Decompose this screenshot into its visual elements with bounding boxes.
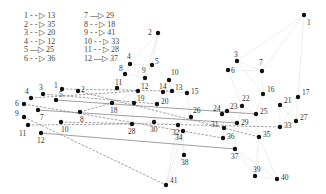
source-node [22,115,26,119]
target-node [257,135,261,139]
mesh-edge [152,65,169,80]
mesh-edge [235,123,237,149]
target-node [221,136,225,140]
node-label: 30 [150,125,158,134]
target-node [235,121,239,125]
node-label: 28 [128,127,136,136]
node-label: 41 [170,176,178,185]
node-label: 27 [300,113,308,122]
node-label: 36 [227,132,235,141]
node-label: 40 [281,173,289,182]
node-label: 13 [175,83,183,92]
mesh-edge [296,97,298,121]
node-label: 11 [19,129,26,138]
mesh-edge [183,117,191,131]
target-node [152,120,156,124]
target-node [260,69,264,73]
node-label: 18 [110,106,118,115]
source-node [29,96,33,100]
target-node [233,147,237,151]
target-node [164,183,168,187]
node-label: 29 [241,118,249,127]
node-label: 20 [161,97,169,106]
source-node [78,110,82,114]
source-node [76,89,80,93]
mesh-edge [187,93,191,117]
node-label: 21 [284,96,292,105]
target-node [156,31,160,35]
node-label: 4 [25,87,29,96]
node-label: 12 [37,136,45,145]
target-node [130,122,134,126]
node-label: 10 [171,68,179,77]
target-node [182,153,186,157]
target-node [132,101,136,105]
node-label: 17 [302,88,310,97]
legend-entry: 12 —▷ 37 [84,55,144,64]
node-label: 8 [80,115,84,124]
node-label: 11 [115,78,122,87]
node-label: 9 [15,109,19,118]
node-label: 3 [39,83,43,92]
node-label: 1 [54,81,58,90]
mesh-edge [228,70,242,106]
target-node [261,92,265,96]
node-label: 39 [253,165,261,174]
node-label: 33 [284,121,292,130]
node-label: 35 [263,130,271,139]
mesh-edge [263,94,280,105]
node-label: 10 [61,125,69,134]
mapping-edge [28,124,132,125]
target-node [294,119,298,123]
node-label: 26 [193,106,201,115]
node-label: 9 [142,66,146,75]
mapping-edge [80,103,112,112]
source-node [22,102,26,106]
node-label: 5 [59,90,63,99]
target-node [235,59,239,63]
node-label: 1 [307,18,311,27]
source-node [41,92,45,96]
target-node [185,91,189,95]
target-node [143,76,147,80]
mapping-edge [38,110,237,123]
target-node [278,103,282,107]
node-label: 37 [231,152,239,161]
mesh-edge [298,15,304,97]
source-node [59,120,63,124]
mesh-edge [242,106,256,114]
node-label: 34 [175,133,183,142]
target-node [254,112,258,116]
graph-mapping-diagram: 1234567891011121234567891011121314151617… [0,0,326,194]
mesh-edge [262,15,304,71]
target-node [189,115,193,119]
target-node [110,101,114,105]
node-label: 16 [267,85,275,94]
node-label: 24 [213,104,221,113]
target-node [225,109,229,113]
mesh-edge [256,114,259,137]
node-label: 12 [141,82,149,91]
target-node [278,125,282,129]
node-label: 14 [159,82,167,91]
target-node [302,13,306,17]
node-label: 3 [234,50,238,59]
target-node [123,72,127,76]
node-label: 2 [81,85,85,94]
target-node [136,89,140,93]
source-node [54,98,58,102]
mesh-edge [132,103,134,124]
mapping-edge [78,91,259,137]
node-label: 31 [211,120,219,129]
source-node [39,131,43,135]
target-node [170,89,174,93]
mesh-edge [222,114,237,123]
mapping-edge [24,117,166,185]
target-node [176,123,180,127]
target-node [155,102,159,106]
mesh-edge [237,15,304,61]
target-node [240,104,244,108]
target-node [222,126,226,130]
node-label: 38 [181,158,189,167]
node-label: 6 [15,99,19,108]
